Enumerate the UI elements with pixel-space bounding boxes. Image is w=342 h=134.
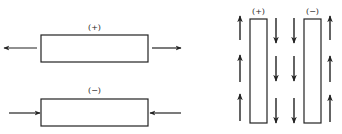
plus-bar-label: (+) bbox=[252, 7, 265, 16]
tension-bar-group: (+) bbox=[4, 23, 181, 62]
compression-label: (−) bbox=[88, 86, 101, 95]
minus-bar-label: (−) bbox=[306, 7, 319, 16]
compression-bar bbox=[41, 99, 148, 126]
minus-vertical-bar bbox=[304, 19, 321, 123]
vertical-bars-group: (+) (−) bbox=[240, 7, 330, 123]
tension-label: (+) bbox=[88, 23, 101, 32]
tension-bar bbox=[41, 35, 148, 62]
force-diagram: (+) (−) (+) (−) bbox=[0, 0, 342, 134]
plus-vertical-bar bbox=[250, 19, 267, 123]
compression-bar-group: (−) bbox=[9, 86, 181, 126]
